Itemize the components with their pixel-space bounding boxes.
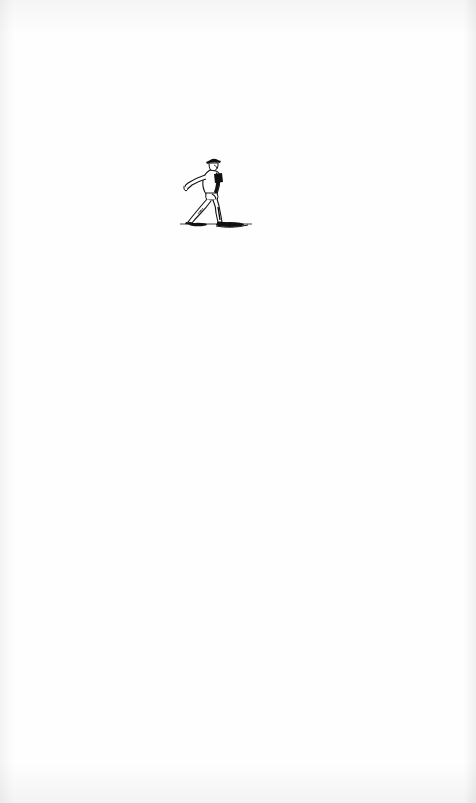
page-edge-shadow-bottom xyxy=(0,763,476,803)
walking-figure-illustration xyxy=(176,156,256,232)
walking-figure-icon xyxy=(176,156,256,232)
page-edge-shadow-top xyxy=(0,0,476,36)
page-edge-shadow-left xyxy=(0,0,14,803)
page-edge-shadow-right xyxy=(464,0,476,803)
book-page xyxy=(0,0,476,803)
